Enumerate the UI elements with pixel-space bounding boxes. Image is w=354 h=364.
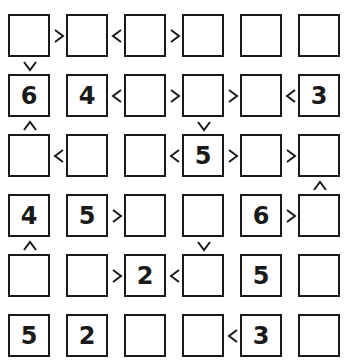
greater-than-icon bbox=[225, 88, 241, 104]
up-chevron-icon bbox=[22, 238, 38, 254]
given-cell[interactable]: 2 bbox=[66, 314, 108, 357]
given-cell[interactable]: 6 bbox=[240, 194, 282, 237]
down-chevron-icon bbox=[22, 58, 38, 74]
greater-than-icon bbox=[167, 88, 183, 104]
given-cell[interactable]: 6 bbox=[8, 74, 50, 117]
given-cell[interactable]: 4 bbox=[8, 194, 50, 237]
greater-than-icon bbox=[109, 268, 125, 284]
empty-cell[interactable] bbox=[124, 314, 166, 357]
empty-cell[interactable] bbox=[298, 134, 340, 177]
greater-than-icon bbox=[225, 148, 241, 164]
less-than-icon bbox=[225, 328, 241, 344]
empty-cell[interactable] bbox=[66, 14, 108, 57]
empty-cell[interactable] bbox=[124, 74, 166, 117]
empty-cell[interactable] bbox=[66, 134, 108, 177]
given-cell[interactable]: 2 bbox=[124, 254, 166, 297]
empty-cell[interactable] bbox=[124, 194, 166, 237]
empty-cell[interactable] bbox=[240, 74, 282, 117]
down-chevron-icon bbox=[196, 238, 212, 254]
empty-cell[interactable] bbox=[298, 14, 340, 57]
empty-cell[interactable] bbox=[66, 254, 108, 297]
less-than-icon bbox=[167, 148, 183, 164]
empty-cell[interactable] bbox=[240, 14, 282, 57]
empty-cell[interactable] bbox=[182, 314, 224, 357]
given-cell[interactable]: 5 bbox=[8, 314, 50, 357]
given-cell[interactable]: 4 bbox=[66, 74, 108, 117]
empty-cell[interactable] bbox=[298, 254, 340, 297]
empty-cell[interactable] bbox=[240, 134, 282, 177]
empty-cell[interactable] bbox=[8, 14, 50, 57]
empty-cell[interactable] bbox=[8, 254, 50, 297]
less-than-icon bbox=[109, 88, 125, 104]
greater-than-icon bbox=[109, 208, 125, 224]
less-than-icon bbox=[167, 268, 183, 284]
up-chevron-icon bbox=[22, 118, 38, 134]
greater-than-icon bbox=[283, 148, 299, 164]
greater-than-icon bbox=[283, 208, 299, 224]
empty-cell[interactable] bbox=[182, 14, 224, 57]
given-cell[interactable]: 3 bbox=[240, 314, 282, 357]
given-cell[interactable]: 5 bbox=[240, 254, 282, 297]
less-than-icon bbox=[283, 88, 299, 104]
less-than-icon bbox=[51, 148, 67, 164]
empty-cell[interactable] bbox=[182, 74, 224, 117]
down-chevron-icon bbox=[196, 118, 212, 134]
empty-cell[interactable] bbox=[8, 134, 50, 177]
empty-cell[interactable] bbox=[124, 14, 166, 57]
empty-cell[interactable] bbox=[182, 254, 224, 297]
empty-cell[interactable] bbox=[124, 134, 166, 177]
empty-cell[interactable] bbox=[298, 194, 340, 237]
greater-than-icon bbox=[167, 28, 183, 44]
given-cell[interactable]: 3 bbox=[298, 74, 340, 117]
up-chevron-icon bbox=[312, 178, 328, 194]
given-cell[interactable]: 5 bbox=[182, 134, 224, 177]
less-than-icon bbox=[109, 28, 125, 44]
greater-than-icon bbox=[51, 28, 67, 44]
empty-cell[interactable] bbox=[298, 314, 340, 357]
given-cell[interactable]: 5 bbox=[66, 194, 108, 237]
empty-cell[interactable] bbox=[182, 194, 224, 237]
